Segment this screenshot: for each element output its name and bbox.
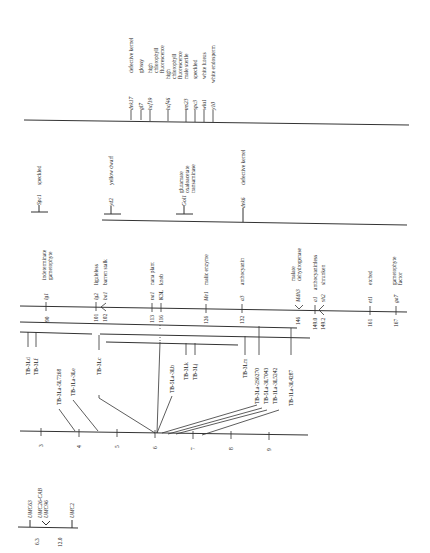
locus-position: 146 [295,317,301,325]
locus-trait: indeterminate gametophyte [41,240,53,280]
locus-trait: barren stalk [102,259,108,285]
locus-position: 101 [93,314,99,322]
locus-symbol: ms23 [183,98,189,110]
locus-symbol: y10 [210,102,216,110]
locus-trait: anthocyanin [239,258,245,285]
translocation-label: TB-3Lk [183,362,189,380]
locus-trait: yellow dwarf [108,156,114,185]
locus-symbol: a1 [312,297,318,303]
marker-symbol: UMC63 [27,500,33,518]
translocation-label: TB-1La-3L4287 [288,370,294,406]
translocation-label: TB-3Lj [192,364,198,381]
translocation-label: TB-1La-3L5242 [272,368,278,404]
scale-tick-label: 7 [190,447,196,450]
locus-symbol: dek17 [128,97,134,110]
locus-symbol: a3 [239,296,245,302]
locus-trait: liguleless [93,264,99,285]
translocation-label: TB-3Lf [33,358,39,375]
locus-trait: malate dehydrogenase [290,246,302,281]
locus-trait: white endosperm [210,45,216,83]
locus-trait: speckled [36,166,42,185]
locus-position: 102 [102,314,108,322]
locus-position: 126 [203,316,209,324]
translocation-label: TB-3Lm [242,359,248,378]
locus-symbol: na1 [149,292,155,300]
locus-trait: knob [158,274,164,285]
marker-symbol: UMC96 [43,500,49,518]
locus-position: 132 [239,316,245,324]
marker-position: 12.0 [57,537,63,547]
locus-symbol: hcf46 [165,98,171,110]
locus-position: 149.0 [312,318,318,330]
translocation-label: TB-5La-3L7043 [263,368,269,404]
locus-trait: etched [367,271,373,285]
locus-trait: anthocyaninless [312,255,318,290]
locus-trait: high chlorophyll fluorescence [165,47,183,79]
locus-symbol: Me1 [203,291,209,301]
locus-symbol: Gol1 [181,195,187,206]
locus-symbol: yd2 [108,198,114,206]
locus-trait: glossy [138,59,144,73]
scale-tick-label: 5 [114,445,120,448]
locus-trait: glutamate oxaloacetate transaminase [178,148,196,193]
locus-trait: speckled [192,60,198,79]
locus-symbol: sh2 [320,294,326,302]
locus-symbol: Mdh3 [295,289,301,302]
locus-symbol: hcf19 [147,98,153,110]
locus-position: 167 [393,319,399,327]
scale-tick-label: 3 [38,444,44,447]
locus-position: 113 [149,315,155,323]
locus-symbol: lg1 [43,293,49,300]
locus-trait: nana plant [149,262,155,285]
translocation-label: TB-3La-2S6270 [254,368,260,404]
scale-tick-label: 9 [266,448,272,451]
locus-trait: shrunken [320,265,326,285]
locus-symbol: dek6 [240,198,246,208]
locus-trait: defective kernel [240,150,246,185]
locus-symbol: ga7 [393,295,399,303]
scale-tick-label: 8 [228,447,234,450]
locus-symbol: gl7 [138,103,144,110]
translocation-label: TB-1La-3Le [70,368,76,396]
locus-trait: defective kernel [128,38,134,73]
locus-position: 161 [367,319,373,327]
locus-symbol: lg2 [93,293,99,300]
locus-position: 149.2 [320,318,326,330]
locus-position: 90 [44,317,50,323]
locus-symbol: ba1 [102,292,108,300]
locus-trait: gametophyte factor [391,250,403,285]
marker-position: 6.3 [34,538,40,545]
marker-symbol: UMC2 [69,503,75,518]
translocation-label: TB-3Ld [25,357,31,375]
locus-symbol: Spc1 [36,194,42,205]
scale-tick-label: 6 [152,446,158,449]
locus-position: 116 [158,315,164,323]
locus-symbol: et1 [367,296,373,303]
translocation-label: TB-5La-3Lb [169,365,175,393]
translocation-label: TB-3La-5L7268 [56,369,62,405]
scale-tick-label: 4 [76,445,82,448]
locus-trait: white luteus [201,52,207,79]
translocation-label: TB-3Lc [96,358,102,375]
locus-symbol: K3L [158,290,164,300]
locus-trait: male sterile [183,53,189,79]
locus-trait: high chlorophyll fluorescence [147,41,165,73]
locus-symbol: spc3 [192,100,198,110]
locus-symbol: wlu1 [201,99,207,110]
locus-trait: malic enzyme [203,254,209,285]
